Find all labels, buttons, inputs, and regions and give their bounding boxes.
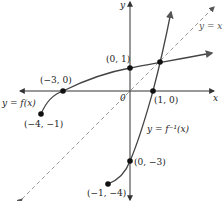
identity-label: y = x: [198, 21, 222, 31]
point-1-0: [150, 88, 156, 94]
graph-canvas: y x 0 y = x y = f(x) y = f⁻¹(x) (0, 1) (…: [0, 0, 223, 201]
point-label-0-neg3: (0, −3): [134, 157, 166, 167]
point-label-neg4-neg1: (−4, −1): [24, 119, 63, 129]
point-label-neg3-0: (−3, 0): [40, 75, 72, 85]
point-label-1-0: (1, 0): [154, 95, 178, 105]
identity-line: [22, 7, 214, 199]
point-0-neg3: [127, 158, 133, 164]
point-neg4-neg1: [38, 111, 44, 117]
point-neg3-0: [60, 88, 66, 94]
intersection-point: [157, 59, 163, 65]
f-inverse-label: y = f⁻¹(x): [146, 124, 190, 134]
point-label-0-1: (0, 1): [106, 54, 130, 64]
f-label: y = f(x): [1, 98, 36, 108]
point-0-1: [127, 65, 133, 71]
origin-label: 0: [120, 93, 126, 103]
x-axis-label: x: [213, 93, 218, 103]
y-axis-label: y: [119, 0, 126, 10]
point-label-neg1-neg4: (−1, −4): [87, 188, 126, 198]
point-neg1-neg4: [105, 181, 111, 187]
